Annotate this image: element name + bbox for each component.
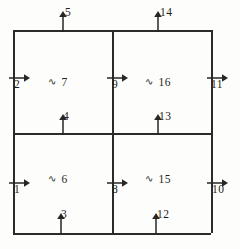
arrow-label-10: 10	[212, 183, 224, 195]
arrow-label-1: 1	[14, 183, 20, 195]
arrow-label-12: 12	[157, 208, 169, 220]
arrow-label-9: 9	[112, 78, 118, 90]
tilde-symbol: ∿	[145, 173, 154, 184]
arrow-label-13: 13	[159, 110, 171, 122]
cell-number: 16	[159, 76, 172, 88]
arrow-label-14: 14	[160, 6, 172, 18]
grid-edge-bottom	[13, 233, 211, 235]
tilde-symbol: ∿	[145, 76, 154, 87]
arrow-label-4: 4	[63, 110, 69, 122]
cell-label-bottom-left: ∿6	[48, 173, 68, 185]
cell-label-bottom-right: ∿15	[145, 173, 171, 185]
arrow-label-3: 3	[61, 208, 67, 220]
arrow-label-2: 2	[14, 78, 20, 90]
grid-divider-vertical	[112, 30, 114, 233]
cell-label-top-right: ∿16	[145, 76, 171, 88]
flux-grid-diagram: ∿7 ∿16 ∿6 ∿15 12345891011121314	[0, 0, 240, 249]
arrow-label-5: 5	[65, 6, 71, 18]
tilde-symbol: ∿	[48, 173, 57, 184]
cell-number: 6	[62, 173, 68, 185]
arrow-label-11: 11	[211, 78, 223, 90]
cell-number: 7	[62, 76, 68, 88]
grid-edge-left	[13, 30, 15, 233]
tilde-symbol: ∿	[48, 76, 57, 87]
cell-label-top-left: ∿7	[48, 76, 68, 88]
grid-edge-right	[211, 30, 213, 233]
cell-number: 15	[159, 173, 172, 185]
arrow-label-8: 8	[112, 183, 118, 195]
